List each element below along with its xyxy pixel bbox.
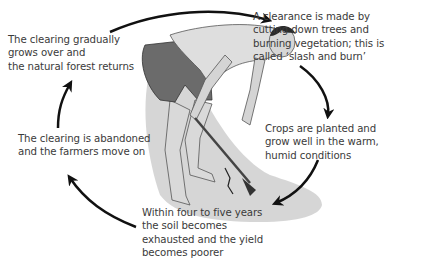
arrow-crops-to-exhausted (276, 160, 318, 203)
step-crops: Crops are planted and grow well in the w… (265, 122, 379, 162)
step-line: Within four to five years (142, 206, 263, 219)
step-line: burning vegetation; this is (253, 37, 384, 50)
step-line: Crops are planted and (265, 122, 379, 135)
step-line: called ‘slash and burn’ (253, 50, 384, 63)
step-line: The clearing is abandoned (18, 132, 151, 145)
step-abandoned: The clearing is abandoned and the farmer… (18, 132, 151, 159)
step-line: grow well in the warm, (265, 135, 379, 148)
step-regrowth: The clearing gradually grows over and th… (8, 33, 134, 73)
step-line: The clearing gradually (8, 33, 134, 46)
step-line: A clearance is made by (253, 10, 384, 23)
step-exhausted: Within four to five years the soil becom… (142, 206, 263, 260)
step-line: the soil becomes (142, 219, 263, 232)
step-line: and the farmers move on (18, 145, 151, 158)
step-line: humid conditions (265, 149, 379, 162)
step-line: cutting down trees and (253, 23, 384, 36)
arrow-regrowth-to-clearance (110, 12, 268, 32)
step-clearance: A clearance is made by cutting down tree… (253, 10, 384, 64)
step-line: becomes poorer (142, 246, 263, 259)
step-line: grows over and (8, 46, 134, 59)
step-line: exhausted and the yield (142, 233, 263, 246)
arrow-clearance-to-crops (300, 66, 328, 115)
arrow-exhausted-to-abandoned (70, 178, 136, 227)
arrow-abandoned-to-regrowth (58, 84, 70, 128)
step-line: the natural forest returns (8, 60, 134, 73)
